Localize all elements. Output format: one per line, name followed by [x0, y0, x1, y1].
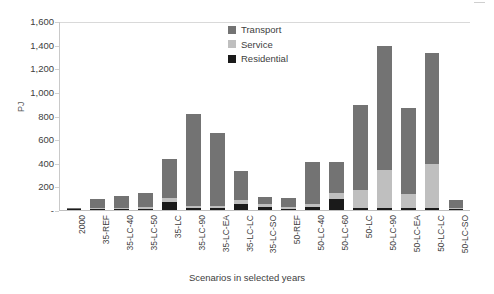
x-axis-column: 50-LC	[348, 213, 372, 269]
bar-stack	[281, 198, 296, 210]
bar-segment-residential	[90, 209, 105, 210]
y-axis-tickmark	[55, 140, 59, 141]
bar-segment-transport	[281, 198, 296, 207]
x-axis-column: 50-LC-LC	[420, 213, 444, 269]
x-axis-column: 50-LC-90	[372, 213, 396, 269]
bar-segment-transport	[90, 199, 105, 208]
y-axis-tick-label: 600	[10, 135, 54, 145]
bar-segment-transport	[449, 200, 464, 208]
legend-item: Residential	[228, 53, 288, 64]
bar-segment-residential	[281, 209, 296, 210]
bar-segment-transport	[162, 159, 177, 198]
bar-segment-transport	[353, 105, 368, 190]
y-axis-tickmark	[55, 46, 59, 47]
bar-segment-transport	[234, 171, 249, 200]
bar-segment-residential	[162, 202, 177, 210]
bar-stack	[449, 200, 464, 210]
y-axis-tick-label: 1,400	[10, 41, 54, 51]
bar-column	[62, 22, 86, 210]
bar-segment-transport	[258, 197, 273, 204]
bar-column	[86, 22, 110, 210]
bar-segment-transport	[305, 162, 320, 205]
y-axis-tickmark	[55, 69, 59, 70]
bar-stack	[210, 133, 225, 210]
legend-swatch-icon	[228, 40, 236, 48]
y-axis-tick-label: 200	[10, 182, 54, 192]
x-axis-column: 35-REF	[85, 213, 109, 269]
bar-segment-transport	[425, 53, 440, 165]
bar-segment-residential	[329, 199, 344, 210]
bar-segment-residential	[377, 208, 392, 210]
bar-stack	[401, 108, 416, 210]
bar-segment-transport	[210, 133, 225, 206]
y-axis-tick-labels: -2004006008001,0001,2001,4001,600	[4, 0, 54, 294]
bar-segment-transport	[138, 193, 153, 207]
bar-segment-transport	[114, 196, 129, 208]
bar-column	[158, 22, 182, 210]
bar-segment-residential	[305, 207, 320, 210]
legend-label: Transport	[241, 24, 281, 35]
x-axis-column: 2000	[61, 213, 85, 269]
y-axis-tickmark	[55, 164, 59, 165]
y-axis-tickmark	[55, 93, 59, 94]
bar-segment-residential	[449, 209, 464, 210]
x-axis-column: 50-LC-40	[300, 213, 324, 269]
legend-swatch-icon	[228, 55, 236, 63]
legend-item: Transport	[228, 24, 288, 35]
bar-segment-transport	[186, 114, 201, 206]
x-axis-column: 35-LC-EA	[205, 213, 229, 269]
bar-segment-transport	[377, 46, 392, 170]
bar-stack	[329, 162, 344, 210]
x-axis-column: 35-LC-SO	[253, 213, 277, 269]
bar-segment-service	[353, 190, 368, 208]
bar-stack	[353, 105, 368, 210]
x-axis-column: 50-LC-SO	[444, 213, 468, 269]
bar-column	[134, 22, 158, 210]
bar-column	[420, 22, 444, 210]
bar-stack	[425, 53, 440, 210]
bar-column	[301, 22, 325, 210]
bar-segment-residential	[401, 208, 416, 210]
bar-stack	[114, 196, 129, 210]
bar-segment-service	[425, 164, 440, 208]
bar-stack	[234, 171, 249, 210]
legend-item: Service	[228, 39, 288, 50]
bar-column	[444, 22, 468, 210]
x-axis-column: 35-LC-90	[181, 213, 205, 269]
bar-segment-residential	[258, 207, 273, 210]
bar-segment-residential	[353, 208, 368, 210]
legend-label: Residential	[241, 53, 288, 64]
y-axis-tickmark	[55, 22, 59, 23]
bar-stack	[67, 208, 82, 210]
bar-segment-residential	[210, 208, 225, 210]
y-axis-tick-label: 1,600	[10, 17, 54, 27]
y-axis-tick-label: 400	[10, 159, 54, 169]
y-axis-tick-label: -	[10, 206, 54, 216]
bar-column	[396, 22, 420, 210]
bar-segment-service	[401, 194, 416, 208]
bar-stack	[186, 114, 201, 210]
x-axis-column: 50-REF	[276, 213, 300, 269]
bar-stack	[377, 46, 392, 210]
y-axis-tickmark	[55, 117, 59, 118]
x-axis-title: Scenarios in selected years	[0, 272, 494, 283]
y-axis-tickmark	[55, 187, 59, 188]
bar-segment-transport	[329, 162, 344, 193]
bar-segment-residential	[186, 208, 201, 210]
bar-stack	[258, 197, 273, 210]
bar-column	[181, 22, 205, 210]
bar-stack	[305, 162, 320, 210]
bar-column	[205, 22, 229, 210]
x-axis-column: 35-LC-50	[133, 213, 157, 269]
x-axis-column: 50-LC-60	[324, 213, 348, 269]
bar-segment-transport	[401, 108, 416, 194]
bar-segment-residential	[67, 209, 82, 210]
x-axis-column: 50-LC-EA	[396, 213, 420, 269]
x-axis-tick-labels: 200035-REF35-LC-4035-LC-5035-LC35-LC-903…	[59, 213, 470, 269]
bar-column	[110, 22, 134, 210]
bar-column	[372, 22, 396, 210]
bar-stack	[90, 199, 105, 210]
y-axis-tick-label: 1,000	[10, 88, 54, 98]
y-axis-tick-label: 800	[10, 112, 54, 122]
y-axis-tick-label: 1,200	[10, 64, 54, 74]
